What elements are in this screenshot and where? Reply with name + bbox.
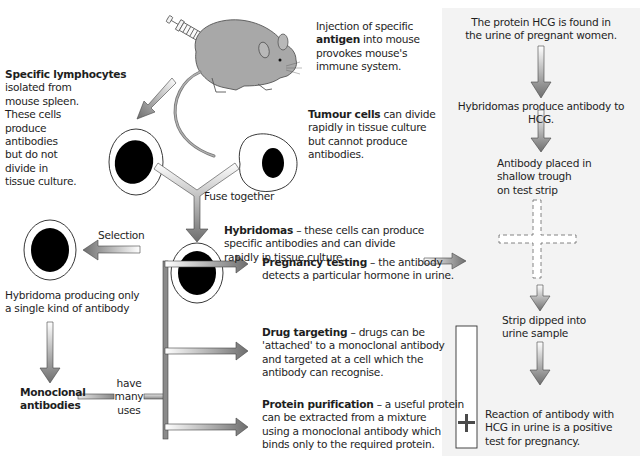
tumour-cell: [239, 134, 297, 192]
panel-step-hcg-found: The protein HCG is found in the urine of…: [446, 16, 636, 43]
lymphocytes-text: Specific lymphocytes isolated from mouse…: [5, 68, 126, 189]
single-hybridoma-text: Hybridoma producing only a single kind o…: [5, 289, 139, 316]
use-protein-purification: Protein purification – a useful protein …: [262, 398, 464, 452]
have-many-uses-label: have many uses: [114, 377, 144, 417]
arrow-to-lymphocyte: [137, 78, 176, 119]
panel-step-positive-result: Reaction of antibody with HCG in urine i…: [485, 408, 614, 448]
panel-arrow-3: [530, 285, 550, 311]
use-pregnancy-testing: Pregnancy testing – the antibody detects…: [262, 256, 454, 283]
use-drug-targeting: Drug targeting – drugs can be 'attached'…: [262, 326, 445, 380]
panel-step-strip-dipped: Strip dipped into urine sample: [502, 314, 586, 341]
single-hybridoma-cell: [24, 220, 76, 280]
selection-label: Selection: [98, 229, 145, 242]
hybridoma-cell: [171, 243, 223, 303]
fuse-together-label: Fuse together: [204, 190, 274, 203]
selection-arrow: [83, 240, 140, 260]
tumour-text: Tumour cells can divide rapidly in tissu…: [308, 108, 436, 162]
mouse-illustration: [175, 20, 302, 156]
monoclonal-antibodies-label: Monoclonal antibodies: [20, 386, 86, 413]
arrow-to-monoclonal: [40, 322, 60, 383]
panel-step-antibody-trough: Antibody placed in shallow trough on tes…: [497, 157, 591, 197]
injection-text: Injection of specific antigen into mouse…: [316, 20, 420, 74]
panel-arrow-1: [531, 46, 551, 98]
dashed-cross-trough: [499, 200, 576, 278]
connector-bar-2: [144, 394, 164, 399]
panel-arrow-4: [530, 342, 550, 385]
panel-step-hybridomas: Hybridomas produce antibody to HCG.: [446, 100, 636, 127]
